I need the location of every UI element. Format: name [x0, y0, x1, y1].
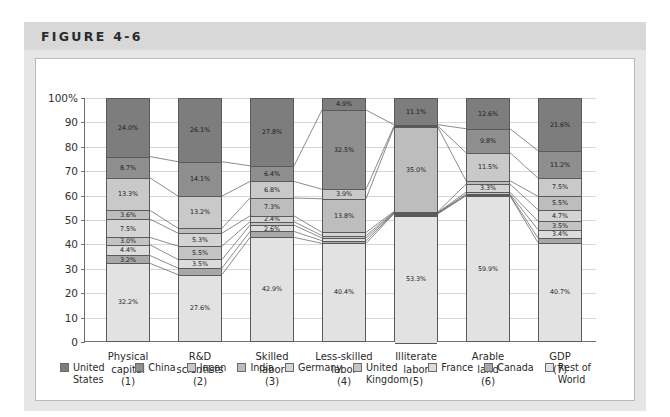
- bar-segment[interactable]: 42.9%: [251, 237, 293, 342]
- legend-item-rest-of-world[interactable]: Rest of World: [545, 362, 609, 385]
- bar-segment[interactable]: 3.0%: [107, 237, 149, 244]
- bar-segment[interactable]: 7.5%: [107, 219, 149, 237]
- legend-swatch-icon: [353, 363, 362, 372]
- plot-axis-area: 0102030405060708090100% 24.0%8.7%13.3%3.…: [85, 98, 596, 342]
- segment-value-label: 32.2%: [118, 299, 138, 305]
- segment-value-label: 13.3%: [118, 191, 138, 197]
- bar-segment[interactable]: 3.5%: [539, 221, 581, 230]
- bar-segment[interactable]: 5.5%: [179, 246, 221, 259]
- y-tick-mark: [81, 98, 85, 99]
- bar-segment[interactable]: 32.2%: [107, 263, 149, 342]
- legend-item-united-kingdom[interactable]: United Kingdom: [353, 362, 417, 385]
- segment-value-label: 40.7%: [550, 289, 570, 295]
- legend-item-germany[interactable]: Germany: [285, 362, 342, 374]
- bar-segment[interactable]: 6.8%: [251, 181, 293, 198]
- connector-line: [438, 125, 466, 129]
- bar-5[interactable]: 11.1%35.0%53.3%: [394, 98, 438, 342]
- bar-segment[interactable]: 40.4%: [323, 243, 365, 342]
- bar-1[interactable]: 24.0%8.7%13.3%3.6%7.5%3.0%4.4%3.2%32.2%: [106, 98, 150, 342]
- bar-segment[interactable]: 3.5%: [179, 259, 221, 268]
- bar-segment[interactable]: 11.5%: [467, 153, 509, 181]
- bar-segment[interactable]: 27.6%: [179, 275, 221, 342]
- connector-line: [294, 110, 322, 166]
- bar-segment[interactable]: 13.2%: [179, 196, 221, 228]
- chart-legend: United StatesChinaJapanIndiaGermanyUnite…: [60, 362, 620, 385]
- segment-value-label: 7.5%: [552, 184, 568, 190]
- bar-segment[interactable]: 35.0%: [395, 127, 437, 211]
- bar-segment[interactable]: 5.5%: [539, 196, 581, 209]
- bar-segment[interactable]: 9.8%: [467, 129, 509, 153]
- segment-value-label: 11.5%: [478, 164, 498, 170]
- bar-segment[interactable]: 13.8%: [323, 199, 365, 233]
- bar-segment[interactable]: 3.9%: [323, 189, 365, 199]
- bar-7[interactable]: 21.6%11.2%7.5%5.5%4.7%3.5%3.4%40.7%: [538, 98, 582, 342]
- y-tick-mark: [81, 171, 85, 172]
- bar-segment[interactable]: 53.3%: [395, 216, 437, 344]
- legend-item-japan[interactable]: Japan: [187, 362, 227, 374]
- legend-label: Canada: [497, 362, 534, 374]
- bar-segment[interactable]: 7.3%: [251, 198, 293, 216]
- bar-segment[interactable]: 40.7%: [539, 243, 581, 342]
- y-tick-label: 90: [65, 116, 78, 128]
- bar-6[interactable]: 12.6%9.8%11.5%3.3%59.9%: [466, 98, 510, 342]
- segment-value-label: 3.6%: [120, 212, 136, 218]
- bar-segment[interactable]: 32.5%: [323, 110, 365, 189]
- bar-segment[interactable]: 8.7%: [107, 157, 149, 178]
- bar-segment[interactable]: 11.2%: [539, 151, 581, 178]
- connector-line: [150, 157, 178, 162]
- segment-value-label: 27.8%: [262, 129, 282, 135]
- legend-item-united-states[interactable]: United States: [60, 362, 124, 385]
- bar-segment[interactable]: 7.5%: [539, 178, 581, 196]
- bar-segment[interactable]: 3.3%: [467, 184, 509, 192]
- legend-item-india[interactable]: India: [237, 362, 274, 374]
- legend-label: Rest of World: [558, 362, 609, 385]
- bar-3[interactable]: 27.8%6.4%6.8%7.3%2.4%2.6%42.9%: [250, 98, 294, 342]
- bar-segment[interactable]: 3.4%: [539, 230, 581, 238]
- segment-value-label: 26.1%: [190, 127, 210, 133]
- bar-segment[interactable]: 4.7%: [539, 210, 581, 221]
- bar-segment[interactable]: 59.9%: [467, 196, 509, 342]
- connector-line: [366, 126, 394, 189]
- bar-segment[interactable]: 26.1%: [179, 98, 221, 162]
- segment-value-label: 3.2%: [120, 257, 136, 263]
- bar-segment[interactable]: 4.9%: [323, 98, 365, 110]
- bar-segment[interactable]: 3.6%: [107, 210, 149, 219]
- segment-value-label: 4.9%: [336, 101, 352, 107]
- segment-value-label: 35.0%: [406, 167, 426, 173]
- segment-value-label: 59.9%: [478, 266, 498, 272]
- segment-value-label: 14.1%: [190, 176, 210, 182]
- y-tick-mark: [81, 220, 85, 221]
- connector-line: [222, 198, 250, 228]
- segment-value-label: 4.7%: [552, 213, 568, 219]
- segment-value-label: 3.4%: [552, 231, 568, 237]
- y-tick-label: 20: [65, 287, 78, 299]
- bar-segment[interactable]: 11.1%: [395, 98, 437, 125]
- bar-segment[interactable]: 5.3%: [179, 233, 221, 246]
- connector-line: [294, 237, 322, 243]
- bar-2[interactable]: 26.1%14.1%13.2%5.3%5.5%3.5%27.6%: [178, 98, 222, 342]
- legend-item-china[interactable]: China: [135, 362, 175, 374]
- bar-segment[interactable]: 12.6%: [467, 98, 509, 129]
- bar-4[interactable]: 4.9%32.5%3.9%13.8%40.4%: [322, 98, 366, 342]
- segment-value-label: 6.8%: [264, 187, 280, 193]
- bar-segment[interactable]: 6.4%: [251, 166, 293, 182]
- y-tick-label: 10: [65, 312, 78, 324]
- bar-segment[interactable]: 14.1%: [179, 162, 221, 196]
- legend-swatch-icon: [484, 363, 493, 372]
- segment-value-label: 12.6%: [478, 111, 498, 117]
- bar-segment[interactable]: 24.0%: [107, 98, 149, 157]
- legend-swatch-icon: [135, 363, 144, 372]
- legend-swatch-icon: [285, 363, 294, 372]
- bar-segment[interactable]: 4.4%: [107, 245, 149, 256]
- connector-line: [366, 213, 394, 240]
- bar-segment[interactable]: [179, 268, 221, 275]
- segment-value-label: 42.9%: [262, 286, 282, 292]
- y-tick-mark: [81, 318, 85, 319]
- bar-segment[interactable]: 13.3%: [107, 178, 149, 210]
- legend-item-france[interactable]: France: [428, 362, 473, 374]
- bar-segment[interactable]: 27.8%: [251, 98, 293, 166]
- bar-segment[interactable]: 3.2%: [107, 255, 149, 263]
- legend-item-canada[interactable]: Canada: [484, 362, 534, 374]
- legend-label: Japan: [200, 362, 227, 374]
- bar-segment[interactable]: 21.6%: [539, 98, 581, 151]
